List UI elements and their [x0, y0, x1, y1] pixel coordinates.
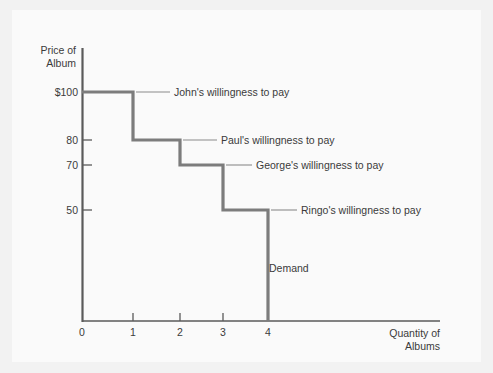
demand-curve-figure: Price of Album Quantity of Albums $100 8…: [0, 0, 493, 373]
y-tick-label-50: 50: [30, 204, 78, 216]
y-tick-label-100: $100: [30, 86, 78, 98]
x-tick-label-0: 0: [72, 326, 92, 338]
y-tick-label-80: 80: [30, 134, 78, 146]
x-tick-label-4: 4: [258, 326, 278, 338]
demand-step-curve: [82, 92, 268, 321]
annotation-paul-willingness: Paul's willingness to pay: [221, 134, 334, 146]
annotation-john-willingness: John's willingness to pay: [174, 86, 289, 98]
x-tick-label-3: 3: [213, 326, 233, 338]
x-axis-title: Quantity of Albums: [330, 327, 440, 353]
annotation-george-willingness: George's willingness to pay: [256, 159, 384, 171]
y-tick-label-70: 70: [30, 159, 78, 171]
x-tick-label-2: 2: [170, 326, 190, 338]
annotation-demand: Demand: [269, 262, 309, 274]
y-axis-title: Price of Album: [6, 44, 76, 70]
annotation-ringo-willingness: Ringo's willingness to pay: [301, 204, 421, 216]
x-tick-label-1: 1: [123, 326, 143, 338]
